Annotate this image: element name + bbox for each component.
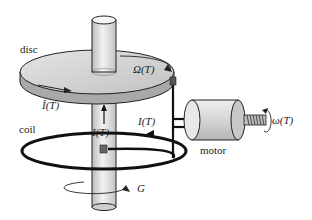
label-omega-big: Ω(T)	[133, 64, 154, 75]
label-current-shaft: I(T)	[92, 127, 109, 138]
motor	[184, 100, 271, 140]
coil-lead	[108, 149, 174, 158]
label-motor: motor	[200, 145, 226, 156]
label-i-hat: Î(T)	[42, 100, 59, 111]
label-current-coil: I(T)	[138, 116, 155, 127]
label-disc: disc	[20, 44, 38, 55]
label-coil: coil	[19, 124, 36, 135]
shaft-upper	[92, 16, 116, 76]
label-g: G	[137, 183, 145, 194]
label-omega-small: ω(T)	[272, 115, 293, 126]
